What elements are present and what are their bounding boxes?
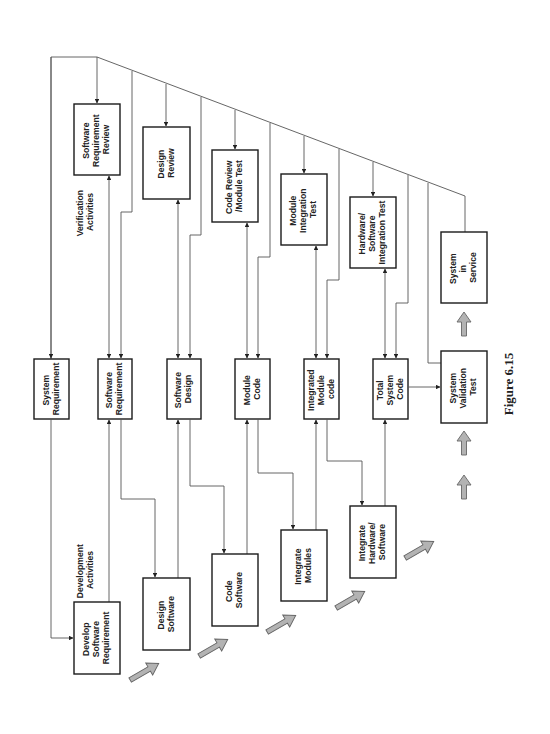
box-develop-sw-req[interactable]: Develop Software Requirement bbox=[74, 602, 120, 674]
box-software-requirement[interactable]: Software Requirement bbox=[98, 359, 132, 419]
box-software-design[interactable]: Software Design bbox=[167, 359, 201, 419]
svg-text:Integrate Hardware/: Integrate Hardware/ Software bbox=[357, 520, 387, 564]
flow-arrow-6 bbox=[457, 475, 471, 499]
stair-to-software-requirement bbox=[121, 71, 132, 358]
box-code-review[interactable]: Code Review /Module Test bbox=[212, 150, 258, 222]
box-module-integration-test[interactable]: Module Integration Test bbox=[281, 174, 327, 245]
svg-text:Design Review: Design Review bbox=[156, 147, 176, 178]
development-activities-heading: Development Activities bbox=[75, 542, 95, 598]
stair-to-integrated-module-code bbox=[327, 149, 339, 358]
development-boxes: Develop Software Requirement Design Soft… bbox=[74, 506, 396, 674]
box-system-in-service[interactable]: System in Service bbox=[441, 232, 487, 303]
verification-boxes: Software Requirement Review Design Revie… bbox=[74, 104, 487, 303]
arrow-swdesign-to-code-software bbox=[190, 419, 224, 553]
figure-caption: Figure 6.15 bbox=[501, 352, 516, 415]
flow-arrow-4 bbox=[333, 585, 369, 614]
box-integrated-module-code[interactable]: Integrated Module code bbox=[304, 359, 339, 419]
box-system-requirement[interactable]: System Requirement bbox=[34, 359, 69, 419]
verification-activities-heading: Verification Activities bbox=[75, 188, 95, 237]
flow-arrow-2 bbox=[196, 633, 232, 662]
stair-to-total-system-code bbox=[396, 175, 408, 358]
stair-to-module-code bbox=[258, 123, 270, 358]
box-system-validation-test[interactable]: System Validation Test bbox=[441, 351, 487, 423]
box-module-code[interactable]: Module Code bbox=[235, 359, 270, 419]
box-design-software[interactable]: Design Software bbox=[143, 578, 190, 650]
svg-text:Software Requirement: Software Requirement bbox=[104, 363, 124, 416]
flow-arrow-5 bbox=[402, 535, 438, 564]
arrow-sysreq-to-develop bbox=[51, 419, 73, 638]
arrow-swreq-to-design-software bbox=[121, 419, 155, 577]
box-sw-req-review[interactable]: Software Requirement Review bbox=[74, 104, 120, 175]
svg-text:Integrate Modules: Integrate Modules bbox=[293, 546, 313, 585]
svg-text:Software Design: Software Design bbox=[173, 370, 193, 409]
arrow-module-code-to-integrate-modules bbox=[258, 419, 293, 529]
flow-arrow-3 bbox=[264, 609, 300, 638]
box-design-review[interactable]: Design Review bbox=[143, 127, 190, 199]
flow-arrow-8 bbox=[457, 312, 471, 336]
box-integrate-hw-sw[interactable]: Integrate Hardware/ Software bbox=[350, 506, 396, 578]
line-to-system-validation-test bbox=[428, 183, 441, 363]
arrow-integrated-code-to-integrate-hwsw bbox=[327, 419, 362, 505]
svg-text:Code Review /Module Te: Code Review /Module Test bbox=[224, 158, 244, 214]
stair-to-software-design bbox=[190, 97, 201, 358]
flow-arrow-1 bbox=[127, 657, 163, 686]
box-code-software[interactable]: Code Software bbox=[212, 554, 258, 626]
v-model-diagram: Software Requirement Review Design Revie… bbox=[0, 0, 550, 734]
box-total-system-code[interactable]: Total System Code bbox=[373, 359, 408, 419]
flow-arrow-7 bbox=[457, 431, 471, 455]
svg-text:Design Software: Design Software bbox=[156, 596, 176, 633]
box-integrate-modules[interactable]: Integrate Modules bbox=[281, 530, 327, 601]
box-hw-sw-integration-test[interactable]: Hardware/ Software Integration Test bbox=[350, 197, 396, 268]
